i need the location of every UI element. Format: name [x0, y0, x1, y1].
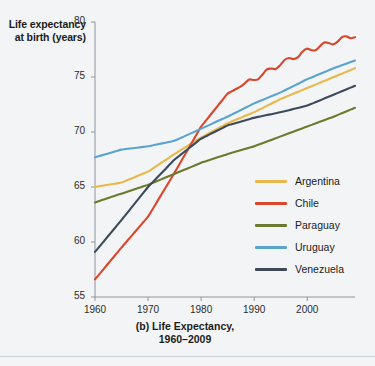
legend-label-chile: Chile [295, 197, 319, 209]
life-expectancy-chart: Life expectancy at birth (years) Argenti… [0, 0, 375, 366]
legend-label-paraguay: Paraguay [295, 219, 340, 231]
legend-item-uruguay[interactable]: Uruguay [255, 236, 344, 258]
y-axis-tick-label: 70 [59, 125, 85, 136]
chart-caption: (b) Life Expectancy, 1960–2009 [95, 320, 275, 346]
legend-swatch-venezuela [255, 268, 287, 271]
legend-swatch-paraguay [255, 224, 287, 227]
y-axis-tick-label: 65 [59, 180, 85, 191]
caption-line2: 1960–2009 [159, 333, 212, 345]
legend-label-uruguay: Uruguay [295, 241, 335, 253]
y-axis-tick-label: 60 [59, 235, 85, 246]
x-axis-tick-label: 1970 [128, 304, 168, 315]
x-axis-tick-label: 1960 [75, 304, 115, 315]
legend-swatch-chile [255, 202, 287, 205]
x-axis-tick-label: 1990 [234, 304, 274, 315]
legend-swatch-argentina [255, 180, 287, 183]
y-axis-tick-label: 55 [59, 290, 85, 301]
x-axis-tick-label: 2000 [287, 304, 327, 315]
legend: ArgentinaChileParaguayUruguayVenezuela [255, 170, 344, 280]
legend-item-chile[interactable]: Chile [255, 192, 344, 214]
legend-item-paraguay[interactable]: Paraguay [255, 214, 344, 236]
legend-item-argentina[interactable]: Argentina [255, 170, 344, 192]
legend-label-venezuela: Venezuela [295, 263, 344, 275]
y-axis-tick-label: 75 [59, 70, 85, 81]
bottom-divider [0, 356, 375, 357]
legend-label-argentina: Argentina [295, 175, 340, 187]
y-axis-title-line2: at birth (years) [15, 31, 86, 43]
y-axis-tick-label: 80 [59, 15, 85, 26]
caption-line1: (b) Life Expectancy, [136, 320, 234, 332]
legend-swatch-uruguay [255, 246, 287, 249]
x-axis-tick-label: 1980 [181, 304, 221, 315]
legend-item-venezuela[interactable]: Venezuela [255, 258, 344, 280]
